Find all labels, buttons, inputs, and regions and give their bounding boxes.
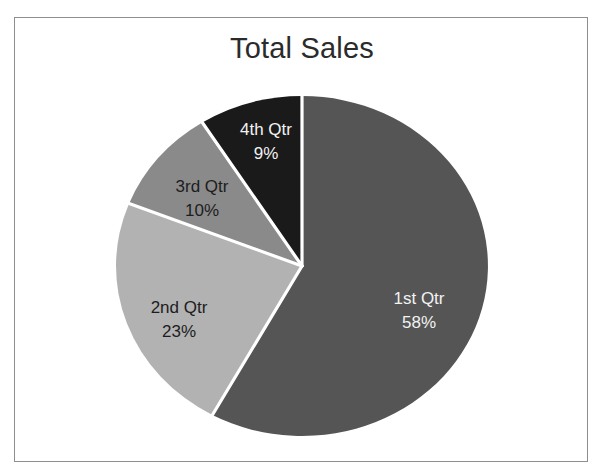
label-4th-qtr-value: 9% <box>254 144 279 163</box>
label-3rd-qtr-value: 10% <box>185 201 219 220</box>
chart-frame: Total Sales 1st Qtr 58% 2nd Qtr 23% 3rd … <box>14 17 588 462</box>
label-2nd-qtr-value: 23% <box>162 322 196 341</box>
label-3rd-qtr-name: 3rd Qtr <box>176 177 229 196</box>
label-1st-qtr-value: 58% <box>402 313 436 332</box>
label-1st-qtr-name: 1st Qtr <box>393 289 444 308</box>
label-2nd-qtr-name: 2nd Qtr <box>151 298 208 317</box>
label-4th-qtr-name: 4th Qtr <box>240 120 292 139</box>
pie-chart[interactable]: 1st Qtr 58% 2nd Qtr 23% 3rd Qtr 10% 4th … <box>15 18 589 463</box>
